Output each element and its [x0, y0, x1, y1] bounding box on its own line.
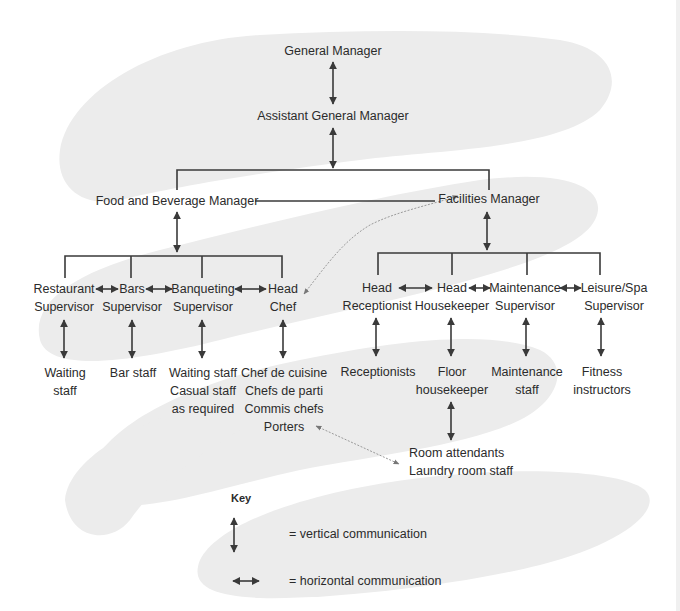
node-label-line: Waiting: [44, 364, 85, 382]
node-label-line: Commis chefs: [241, 400, 327, 418]
key-vertical-label: = vertical communication: [289, 525, 427, 543]
node-label-line: Fitness: [573, 363, 631, 381]
node-label-line: Housekeeper: [415, 297, 489, 315]
node-banqueting-staff: Waiting staff Casual staff as required: [169, 364, 237, 418]
node-head-receptionist: Head Receptionist: [343, 279, 412, 315]
node-label-line: Head: [268, 280, 298, 298]
node-label-line: Banqueting: [171, 280, 234, 298]
node-label-line: Supervisor: [171, 298, 234, 316]
node-label-line: staff: [491, 381, 563, 399]
node-head-housekeeper: Head Housekeeper: [415, 279, 489, 315]
node-label-line: Supervisor: [102, 298, 162, 316]
node-label-line: Supervisor: [581, 297, 648, 315]
node-label-line: Maintenance: [489, 279, 561, 297]
node-label-line: Waiting staff: [169, 364, 237, 382]
bracket-facilities: [378, 253, 600, 275]
informal-arrow-porters-roomattendants: [316, 426, 399, 464]
node-maintenance-supervisor: Maintenance Supervisor: [489, 279, 561, 315]
node-label-line: Head: [415, 279, 489, 297]
node-label-line: Leisure/Spa: [581, 279, 648, 297]
node-label-line: Room attendants: [409, 444, 513, 462]
node-floor-housekeeper: Floor housekeeper: [416, 363, 488, 399]
node-label-line: Head: [343, 279, 412, 297]
node-waiting-staff: Waiting staff: [44, 364, 85, 400]
node-banqueting-supervisor: Banqueting Supervisor: [171, 280, 234, 316]
node-facilities-manager: Facilities Manager: [438, 190, 539, 208]
node-fitness-instructors: Fitness instructors: [573, 363, 631, 399]
node-label-line: Supervisor: [33, 298, 94, 316]
node-label-line: Receptionist: [343, 297, 412, 315]
bracket-fb: [65, 256, 282, 278]
node-label-line: Chefs de parti: [241, 382, 327, 400]
node-bars-supervisor: Bars Supervisor: [102, 280, 162, 316]
node-general-manager: General Manager: [284, 42, 381, 60]
node-label-line: Casual staff: [169, 382, 237, 400]
key-horizontal-label: = horizontal communication: [289, 572, 442, 590]
node-label-line: Bars: [102, 280, 162, 298]
node-label-line: Chef: [268, 298, 298, 316]
node-assistant-general-manager: Assistant General Manager: [257, 107, 408, 125]
node-label-line: Floor: [416, 363, 488, 381]
node-food-beverage-manager: Food and Beverage Manager: [96, 192, 259, 210]
node-label-line: Porters: [241, 418, 327, 436]
node-head-chef: Head Chef: [268, 280, 298, 316]
node-label-line: Maintenance: [491, 363, 563, 381]
node-leisure-spa-supervisor: Leisure/Spa Supervisor: [581, 279, 648, 315]
node-label-line: Chef de cuisine: [241, 364, 327, 382]
node-kitchen-staff: Chef de cuisine Chefs de parti Commis ch…: [241, 364, 327, 436]
node-maintenance-staff: Maintenance staff: [491, 363, 563, 399]
node-label-line: Restaurant: [33, 280, 94, 298]
node-receptionists: Receptionists: [340, 363, 415, 381]
node-label-line: instructors: [573, 381, 631, 399]
page-edge: [676, 0, 680, 611]
node-restaurant-supervisor: Restaurant Supervisor: [33, 280, 94, 316]
node-bar-staff: Bar staff: [110, 364, 156, 382]
key-title: Key: [231, 489, 251, 507]
node-label-line: staff: [44, 382, 85, 400]
node-label-line: Laundry room staff: [409, 462, 513, 480]
bracket-top: [177, 170, 489, 190]
node-label-line: Supervisor: [489, 297, 561, 315]
node-label-line: housekeeper: [416, 381, 488, 399]
node-label-line: as required: [169, 400, 237, 418]
node-room-attendants: Room attendants Laundry room staff: [409, 444, 513, 480]
